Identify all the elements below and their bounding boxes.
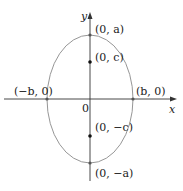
x-axis-label: x [169, 103, 176, 116]
ellipse-diagram: y x 0 (0, a) (0, c) (b, 0) (−b, 0) (0, −… [0, 0, 183, 191]
top-focus-point [88, 60, 92, 64]
origin-label: 0 [82, 102, 89, 115]
top-vertex-point [88, 33, 91, 36]
right-vertex-label: (b, 0) [136, 85, 166, 98]
left-vertex-label: (−b, 0) [14, 85, 53, 98]
bottom-vertex-label: (0, −a) [95, 167, 133, 180]
top-vertex-label: (0, a) [95, 23, 124, 36]
x-axis-arrow-icon [170, 97, 177, 102]
bottom-focus-label: (0, −c) [95, 121, 133, 134]
bottom-focus-point [88, 134, 92, 138]
y-axis [88, 12, 93, 181]
bottom-vertex-point [88, 161, 91, 164]
y-axis-arrow-icon [88, 12, 93, 19]
top-focus-label: (0, c) [95, 51, 124, 64]
y-axis-label: y [80, 10, 88, 23]
right-vertex-point [131, 97, 134, 100]
